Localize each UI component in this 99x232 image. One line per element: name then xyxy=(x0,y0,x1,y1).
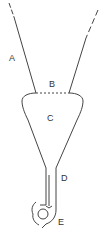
funnel-diagram: A B C D E xyxy=(0,0,99,232)
label-c: C xyxy=(47,113,54,123)
stem-arrow-tip xyxy=(46,206,52,208)
bowl-left-wall xyxy=(22,93,46,168)
label-a: A xyxy=(9,53,15,63)
bowl-right-wall xyxy=(56,93,83,168)
right-wall-top-dashed xyxy=(86,10,98,38)
left-wall xyxy=(14,17,36,93)
e-left-bracket-top xyxy=(32,202,36,214)
label-b: B xyxy=(49,79,55,89)
label-e: E xyxy=(58,217,64,227)
left-wall-top-dashed xyxy=(9,3,14,17)
label-d: D xyxy=(61,173,68,183)
e-circle xyxy=(38,209,48,219)
right-wall xyxy=(69,38,86,93)
